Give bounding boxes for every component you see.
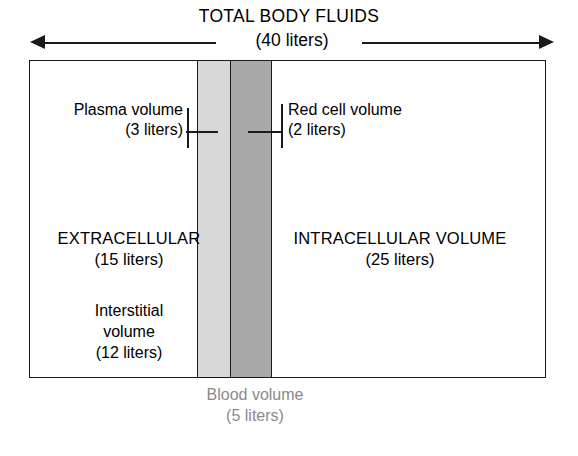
red-cell-volume-value: (2 liters) xyxy=(288,121,346,138)
interstitial-name-line1: Interstitial xyxy=(95,302,163,319)
plasma-volume-callout: Plasma volume (3 liters) xyxy=(38,100,183,140)
intracellular-name: INTRACELLULAR VOLUME xyxy=(250,228,550,249)
blood-volume-caption: Blood volume (5 liters) xyxy=(130,384,380,426)
red-cell-volume-band xyxy=(231,61,272,377)
body-fluids-diagram: TOTAL BODY FLUIDS (40 liters) Plasma vol… xyxy=(0,0,578,456)
plasma-volume-name: Plasma volume xyxy=(74,101,183,118)
intracellular-value: (25 liters) xyxy=(250,249,550,270)
span-line-right xyxy=(362,42,540,44)
extracellular-name: EXTRACELLULAR xyxy=(44,228,214,249)
intracellular-label: INTRACELLULAR VOLUME (25 liters) xyxy=(250,228,550,270)
extracellular-value: (15 liters) xyxy=(44,249,214,270)
total-value-label: (40 liters) xyxy=(216,30,368,51)
blood-volume-name: Blood volume xyxy=(207,386,304,403)
figure-title: TOTAL BODY FLUIDS xyxy=(0,6,578,27)
plasma-leader-line xyxy=(186,131,218,133)
red-cell-leader-stem xyxy=(281,104,283,148)
red-cell-leader-line xyxy=(248,131,282,133)
extracellular-label: EXTRACELLULAR (15 liters) xyxy=(44,228,214,270)
red-cell-volume-name: Red cell volume xyxy=(288,101,402,118)
arrow-head-right-icon xyxy=(539,35,554,49)
span-line-left xyxy=(42,42,222,44)
total-span-arrow: (40 liters) xyxy=(30,31,554,57)
interstitial-volume-label: Interstitial volume (12 liters) xyxy=(44,300,214,363)
red-cell-volume-callout: Red cell volume (2 liters) xyxy=(288,100,402,140)
plasma-leader-stem xyxy=(187,108,189,148)
blood-volume-value: (5 liters) xyxy=(226,407,284,424)
plasma-volume-value: (3 liters) xyxy=(125,121,183,138)
interstitial-name-line2: volume xyxy=(103,323,155,340)
interstitial-value: (12 liters) xyxy=(96,344,163,361)
